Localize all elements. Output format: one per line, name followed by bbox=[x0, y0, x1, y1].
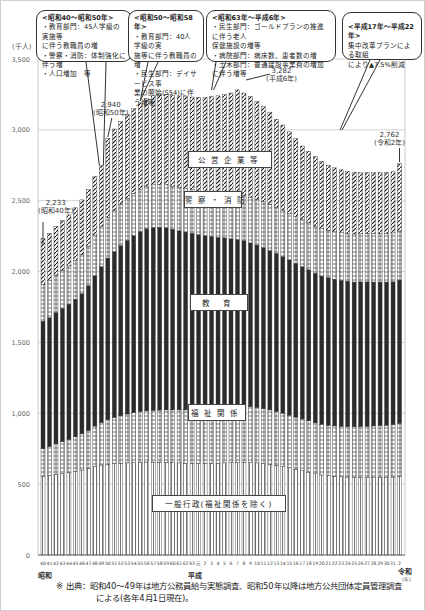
x-tick-label: 2 bbox=[204, 561, 207, 566]
bar-segment bbox=[151, 96, 155, 185]
bar-45 bbox=[73, 208, 77, 555]
bar-segment bbox=[287, 415, 291, 468]
bar-segment bbox=[294, 217, 298, 264]
x-tick-label: 48 bbox=[92, 561, 98, 566]
bar-segment bbox=[242, 241, 246, 406]
bar-segment bbox=[287, 260, 291, 415]
bar-segment bbox=[313, 226, 317, 273]
bar-segment bbox=[93, 177, 97, 236]
x-tick-label: 3 bbox=[210, 561, 213, 566]
y-tick-label: 2,500 bbox=[11, 197, 30, 205]
bar-segment bbox=[333, 426, 337, 476]
bar-segment bbox=[47, 447, 51, 476]
bar-segment bbox=[287, 468, 291, 555]
bar-segment bbox=[223, 238, 227, 407]
bar-segment bbox=[151, 227, 155, 410]
bar-segment bbox=[197, 97, 201, 191]
bar-segment bbox=[391, 477, 395, 555]
bar-segment bbox=[313, 273, 317, 423]
bar-segment bbox=[60, 474, 64, 555]
bar-segment bbox=[281, 413, 285, 466]
bar-segment bbox=[93, 236, 97, 276]
bar-segment bbox=[138, 231, 142, 411]
bar-segment bbox=[60, 308, 64, 441]
bar-segment bbox=[80, 254, 84, 293]
bar-segment bbox=[359, 477, 363, 555]
annotation-s50: 2,940 (昭和50年) bbox=[93, 101, 128, 117]
x-tick-label: 18 bbox=[306, 561, 312, 566]
bar-segment bbox=[47, 476, 51, 555]
bar-59 bbox=[164, 94, 168, 555]
bar-segment bbox=[151, 185, 155, 228]
bar-segment bbox=[333, 168, 337, 232]
bar-segment bbox=[171, 229, 175, 410]
bar-segment bbox=[106, 138, 110, 217]
bar-segment bbox=[203, 236, 207, 410]
bar-segment bbox=[268, 204, 272, 250]
bar-segment bbox=[119, 204, 123, 246]
x-tick-label: 21 bbox=[325, 561, 331, 566]
bar-segment bbox=[119, 416, 123, 463]
bar-27 bbox=[365, 173, 369, 555]
bar-segment bbox=[385, 233, 389, 282]
x-tick-label: 8 bbox=[242, 561, 245, 566]
bar-segment bbox=[333, 279, 337, 426]
x-tick-label: 55 bbox=[137, 561, 143, 566]
bar-46 bbox=[80, 200, 84, 555]
x-tick-label: 56 bbox=[144, 561, 150, 566]
x-tick-label: 41 bbox=[47, 561, 53, 566]
bar-segment bbox=[352, 172, 356, 234]
x-tick-label: 40 bbox=[40, 561, 46, 566]
x-tick-label: 45 bbox=[72, 561, 78, 566]
bar-segment bbox=[287, 213, 291, 260]
bar-2 bbox=[398, 164, 402, 555]
bar-segment bbox=[398, 423, 402, 476]
segment-label-koei: 公営企業等 bbox=[188, 151, 272, 168]
bar-42 bbox=[54, 226, 58, 555]
bar-segment bbox=[145, 229, 149, 411]
bar-segment bbox=[223, 95, 227, 193]
x-tick-label: 6 bbox=[230, 561, 233, 566]
bar-segment bbox=[307, 223, 311, 270]
bar-segment bbox=[164, 228, 168, 410]
bar-segment bbox=[378, 233, 382, 282]
bar-segment bbox=[80, 434, 84, 470]
bar-segment bbox=[73, 299, 77, 436]
bar-segment bbox=[47, 318, 51, 447]
bar-segment bbox=[339, 280, 343, 426]
callout-h17-h22: <平成17年～平成22年> 集中改革プランによる取組 により▲7.5%削減 bbox=[342, 12, 422, 60]
bar-segment bbox=[313, 423, 317, 474]
bar-segment bbox=[60, 270, 64, 308]
bar-segment bbox=[261, 202, 265, 248]
x-tick-label: 59 bbox=[163, 561, 169, 566]
bar-segment bbox=[346, 426, 350, 477]
bar-segment bbox=[216, 96, 220, 193]
era-label-heisei: 平成 bbox=[188, 570, 202, 580]
bar-48 bbox=[93, 177, 97, 555]
bar-segment bbox=[216, 237, 220, 408]
bar-segment bbox=[67, 440, 71, 473]
bar-segment bbox=[80, 200, 84, 255]
bar-segment bbox=[67, 304, 71, 439]
x-tick-label: 13 bbox=[273, 561, 279, 566]
bar-segment bbox=[132, 413, 136, 463]
x-axis: 4041424344454647484950515253545556575859… bbox=[38, 555, 405, 567]
bar-segment bbox=[229, 239, 233, 407]
bar-segment bbox=[274, 119, 278, 207]
bar-segment bbox=[73, 437, 77, 472]
x-tick-label: 23 bbox=[338, 561, 344, 566]
bar-11 bbox=[261, 107, 265, 555]
bar-segment bbox=[138, 462, 142, 555]
bar-segment bbox=[242, 93, 246, 195]
segment-label-ippan: 一般行政(福祉関係を除く) bbox=[152, 495, 286, 512]
bar-segment bbox=[391, 282, 395, 425]
bar-segment bbox=[281, 210, 285, 256]
bar-segment bbox=[93, 426, 97, 466]
bar-segment bbox=[93, 466, 97, 555]
y-tick-label: 3,000 bbox=[11, 126, 30, 134]
x-tick-label: 14 bbox=[280, 561, 286, 566]
segment-label-fukushi: 福祉関係 bbox=[188, 404, 246, 421]
bar-segment bbox=[274, 411, 278, 465]
bar-segment bbox=[190, 97, 194, 190]
bar-segment bbox=[352, 282, 356, 427]
